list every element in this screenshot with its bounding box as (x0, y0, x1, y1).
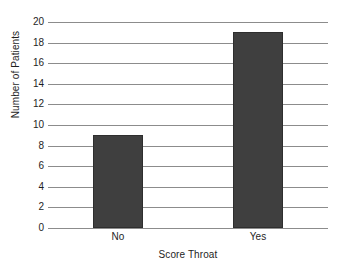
bars (48, 22, 328, 228)
y-axis-tick-label: 6 (22, 161, 44, 171)
gridline (48, 228, 328, 229)
y-axis-tick-label: 4 (22, 182, 44, 192)
x-axis-tick-label: Yes (223, 231, 293, 243)
y-axis-tick-label: 10 (22, 120, 44, 130)
y-axis-tick-label: 12 (22, 99, 44, 109)
x-axis-tick-label: No (83, 231, 153, 243)
y-axis-tick-label: 14 (22, 79, 44, 89)
y-axis-tick-label: 18 (22, 38, 44, 48)
bar-no (93, 135, 143, 228)
x-axis-title: Score Throat (48, 249, 328, 260)
y-axis-tick-label: 2 (22, 202, 44, 212)
x-axis-tick-labels: NoYes (48, 231, 328, 245)
bar-yes (233, 32, 283, 228)
y-axis-tick-labels: 02468101214161820 (22, 0, 44, 266)
bar-chart: Number of Patients 02468101214161820 NoY… (0, 0, 338, 266)
plot-area (48, 22, 328, 228)
y-axis-tick-label: 0 (22, 223, 44, 233)
y-axis-tick-label: 8 (22, 141, 44, 151)
y-axis-tick-label: 16 (22, 58, 44, 68)
y-axis-title: Number of Patients (10, 13, 21, 137)
y-axis-tick-label: 20 (22, 17, 44, 27)
